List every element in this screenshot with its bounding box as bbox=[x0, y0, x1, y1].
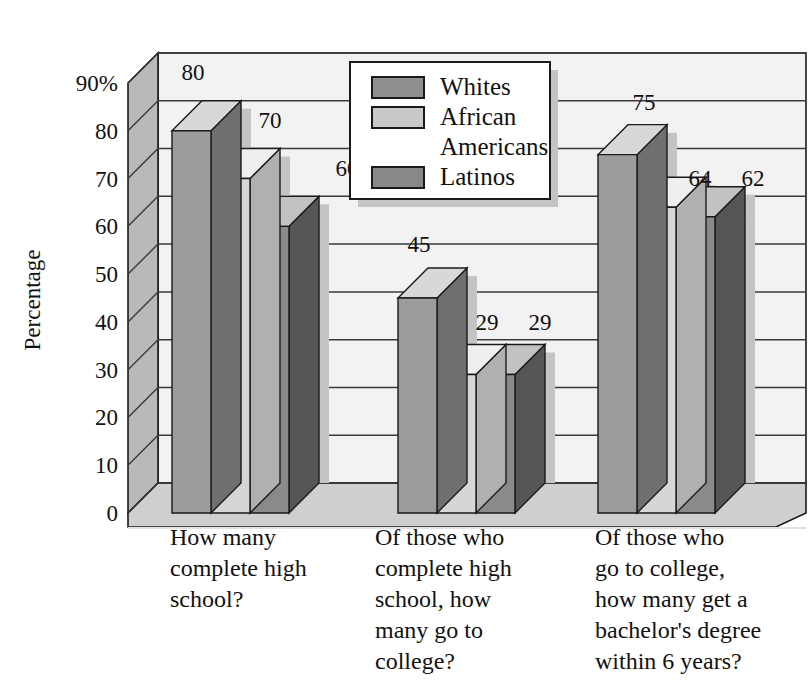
legend-label-americans: Americans bbox=[440, 133, 548, 160]
bar-value-label: 62 bbox=[742, 166, 765, 191]
y-tick-label: 40 bbox=[95, 310, 118, 335]
y-tick-label: 50 bbox=[95, 262, 118, 287]
legend-swatch-latinos bbox=[372, 167, 424, 188]
legend-label-latinos: Latinos bbox=[440, 163, 515, 190]
bar-side-face bbox=[250, 149, 280, 513]
category-label-line: Of those who bbox=[595, 524, 724, 550]
bar-chart-svg: 0102030405060708090%Percentage8070604529… bbox=[0, 0, 810, 693]
category-label-line: how many get a bbox=[595, 586, 748, 612]
bar-side-face bbox=[289, 196, 319, 513]
bar-value-label: 45 bbox=[408, 232, 431, 257]
legend-label-african: African bbox=[440, 103, 517, 130]
bar-value-label: 80 bbox=[182, 60, 205, 85]
y-tick-label: 80 bbox=[95, 119, 118, 144]
bar-value-label: 75 bbox=[633, 90, 656, 115]
category-label-line: bachelor's degree bbox=[595, 617, 761, 643]
category-label-line: How many bbox=[170, 524, 276, 550]
legend-label-whites: Whites bbox=[440, 73, 511, 100]
bar-value-label: 64 bbox=[689, 166, 713, 191]
bar-value-label: 29 bbox=[529, 310, 552, 335]
category-label-line: school? bbox=[170, 586, 243, 612]
y-tick-label: 60 bbox=[95, 214, 118, 239]
bar-value-label: 29 bbox=[476, 310, 499, 335]
y-tick-label: 30 bbox=[95, 358, 118, 383]
chart-figure: 0102030405060708090%Percentage8070604529… bbox=[0, 0, 810, 693]
bar-front-face bbox=[398, 298, 437, 513]
category-label-line: go to college, bbox=[595, 555, 725, 581]
category-label-line: Of those who bbox=[375, 524, 504, 550]
y-tick-label: 70 bbox=[95, 167, 118, 192]
category-label-line: within 6 years? bbox=[595, 648, 742, 674]
bar-front-face bbox=[172, 131, 211, 513]
bar-side-face bbox=[437, 268, 467, 513]
bar-side-face bbox=[637, 125, 667, 513]
category-label-line: college? bbox=[375, 648, 455, 674]
bar-side-face bbox=[715, 187, 745, 513]
y-tick-label: 20 bbox=[95, 405, 118, 430]
y-tick-label: 10 bbox=[95, 453, 118, 478]
category-label-line: many go to bbox=[375, 617, 483, 643]
y-tick-label: 90% bbox=[76, 71, 118, 96]
bar-side-face bbox=[676, 177, 706, 513]
left-wall bbox=[128, 53, 158, 513]
category-label-line: school, how bbox=[375, 586, 492, 612]
y-axis-title: Percentage bbox=[20, 250, 45, 351]
bar-value-label: 70 bbox=[259, 108, 282, 133]
legend-swatch-whites bbox=[372, 77, 424, 98]
category-label-line: complete high bbox=[375, 555, 512, 581]
bar-side-face bbox=[211, 101, 241, 513]
y-tick-label: 0 bbox=[107, 501, 119, 526]
category-label-line: complete high bbox=[170, 555, 307, 581]
legend-swatch-african bbox=[372, 107, 424, 128]
bar-front-face bbox=[598, 155, 637, 513]
